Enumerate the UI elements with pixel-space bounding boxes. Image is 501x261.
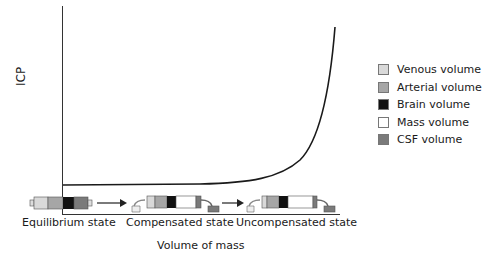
state-label-uncompensated: Uncompensated state [236,216,357,229]
legend-item-brain: Brain volume [378,96,482,114]
uncompensated-cylinder [247,196,335,212]
legend-label: Brain volume [397,98,470,111]
brain-swatch-icon [378,99,389,110]
legend-label: Venous volume [397,63,481,76]
state-label-compensated: Compensated state [126,216,234,229]
legend: Venous volume Arterial volume Brain volu… [378,61,482,149]
arrow-icon [97,199,127,207]
legend-label: Mass volume [397,116,469,129]
legend-item-mass: Mass volume [378,114,482,132]
compensated-cylinder [132,196,219,212]
csf-swatch-icon [378,134,389,145]
arrow-icon [222,199,244,207]
legend-label: CSF volume [397,133,462,146]
mass-swatch-icon [378,117,389,128]
legend-item-arterial: Arterial volume [378,79,482,97]
icp-curve [63,27,335,185]
y-axis-label: ICP [14,67,28,86]
legend-item-csf: CSF volume [378,131,482,149]
equilibrium-cylinder [30,197,92,209]
legend-label: Arterial volume [397,81,482,94]
arterial-swatch-icon [378,82,389,93]
x-axis-label: Volume of mass [157,239,244,252]
venous-swatch-icon [378,64,389,75]
state-label-equilibrium: Equilibrium state [22,216,116,229]
legend-item-venous: Venous volume [378,61,482,79]
